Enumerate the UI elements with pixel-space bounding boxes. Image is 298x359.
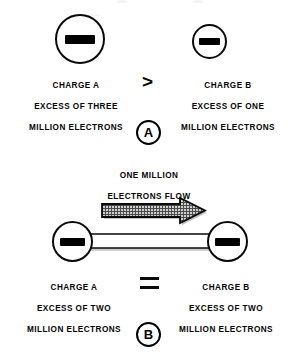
panel-badge-b: B — [136, 322, 161, 347]
caption-line: CHARGE B — [158, 283, 294, 294]
caption-line: MILLION ELECTRONS — [158, 325, 294, 336]
minus-sign-icon — [215, 238, 240, 246]
equals-bar-bottom — [140, 286, 159, 289]
charge-b-circle-panel-b — [207, 221, 248, 262]
electron-flow-arrow — [99, 196, 208, 226]
electron-flow-figure: CHARGE A EXCESS OF THREE MILLION ELECTRO… — [0, 0, 298, 359]
charge-a-circle-panel-b — [52, 221, 93, 262]
conductor-rod — [80, 228, 220, 256]
caption-line: ONE MILLION — [79, 171, 219, 182]
panel-b: ONE MILLION ELECTRONS FLOW — [0, 0, 298, 359]
charge-b-circle-panel-a — [192, 24, 227, 59]
caption-line: EXCESS OF TWO — [158, 304, 294, 315]
minus-sign-icon — [199, 38, 220, 45]
equals-operator — [140, 277, 159, 291]
caption-line: EXCESS OF TWO — [6, 304, 142, 315]
caption-line: CHARGE A — [6, 283, 142, 294]
charge-a-circle-panel-a — [55, 14, 105, 64]
equals-bar-top — [140, 277, 159, 280]
caption-line: MILLION ELECTRONS — [6, 325, 142, 336]
minus-sign-icon — [65, 35, 95, 44]
charge-b-caption-panel-b: CHARGE B EXCESS OF TWO MILLION ELECTRONS — [158, 272, 294, 346]
charge-a-caption-panel-b: CHARGE A EXCESS OF TWO MILLION ELECTRONS — [6, 272, 142, 346]
minus-sign-icon — [60, 238, 85, 246]
